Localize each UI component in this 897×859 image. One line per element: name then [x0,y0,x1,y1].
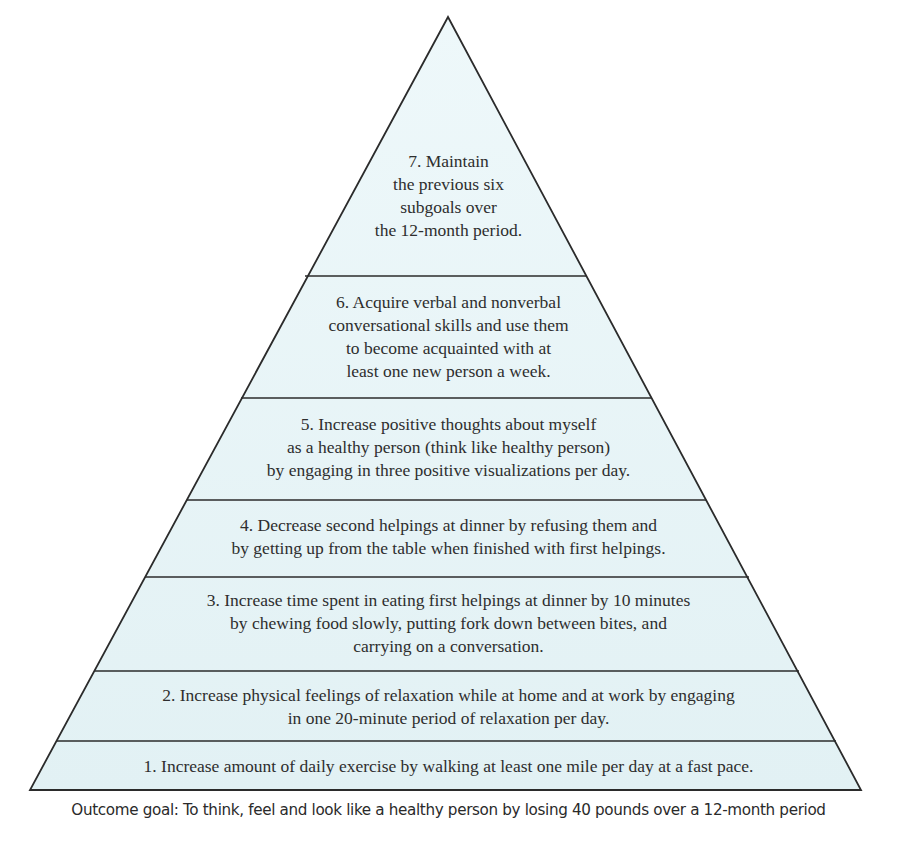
level-3-text: 3. Increase time spent in eating first h… [0,589,897,658]
level-6-line: conversational skills and use them [0,314,897,337]
level-7-text: 7. Maintain the previous six subgoals ov… [0,150,897,242]
level-5-line: as a healthy person (think like healthy … [0,436,897,459]
level-7-line: the 12-month period. [0,219,897,242]
level-3-line: carrying on a conversation. [0,635,897,658]
level-2-text: 2. Increase physical feelings of relaxat… [0,684,897,730]
level-1-text: 1. Increase amount of daily exercise by … [0,755,897,778]
level-5-text: 5. Increase positive thoughts about myse… [0,413,897,482]
level-6-line: least one new person a week. [0,360,897,383]
level-5-line: by engaging in three positive visualizat… [0,459,897,482]
level-6-line: 6. Acquire verbal and nonverbal [0,291,897,314]
level-4-line: by getting up from the table when finish… [0,537,897,560]
level-3-line: 3. Increase time spent in eating first h… [0,589,897,612]
level-6-text: 6. Acquire verbal and nonverbal conversa… [0,291,897,383]
level-7-line: 7. Maintain [0,150,897,173]
level-4-line: 4. Decrease second helpings at dinner by… [0,514,897,537]
level-7-line: subgoals over [0,196,897,219]
level-6-line: to become acquainted with at [0,337,897,360]
level-2-line: 2. Increase physical feelings of relaxat… [0,684,897,707]
level-2-line: in one 20-minute period of relaxation pe… [0,707,897,730]
level-1-line: 1. Increase amount of daily exercise by … [0,755,897,778]
level-5-line: 5. Increase positive thoughts about myse… [0,413,897,436]
pyramid-outline [30,17,861,790]
level-4-text: 4. Decrease second helpings at dinner by… [0,514,897,560]
level-3-line: by chewing food slowly, putting fork dow… [0,612,897,635]
level-7-line: the previous six [0,173,897,196]
outcome-goal-caption: Outcome goal: To think, feel and look li… [0,801,897,819]
